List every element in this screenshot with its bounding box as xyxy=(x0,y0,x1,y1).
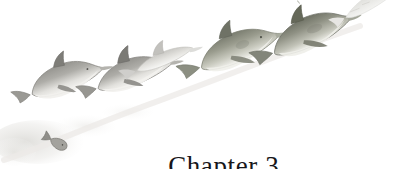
dolphin-1-front-left xyxy=(4,39,118,110)
chapter-opener-page: Chapter 3 xyxy=(0,0,418,169)
page-title: Chapter 3 xyxy=(0,118,418,169)
chapter-title-text: Chapter 3 xyxy=(168,151,279,169)
